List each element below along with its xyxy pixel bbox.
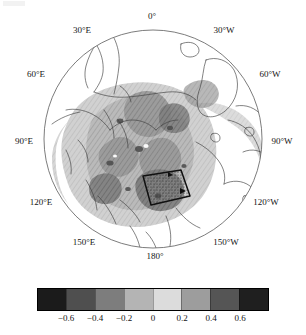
colorbar-tick-3: 0 [151,313,156,324]
colorbar-segment-6 [181,289,210,310]
lon-label-90w: 90°W [271,136,292,146]
colorbar-segment-1 [38,289,66,310]
colorbar-segment-2 [66,289,95,310]
lon-label-180: 180° [146,251,163,261]
colorbar-segment-4 [124,289,153,310]
field-core-siberia [89,173,122,204]
colorbar-tick-6: 0.6 [234,313,245,324]
colorbar-tick-2: −0.2 [116,313,132,324]
lon-label-120e: 120°E [30,197,53,207]
lon-label-120w: 120°W [253,197,279,207]
colorbar-tick-0: −0.6 [58,313,74,324]
field-core-arctic [159,103,190,133]
polar-stereographic-map-svg [0,0,306,268]
colorbar-segment-5 [153,289,182,310]
colorbar: −0.6 −0.4 −0.2 0 0.2 0.4 0.6 [0,268,306,335]
lon-label-150e: 150°E [73,237,96,247]
colorbar-segment-8 [239,289,268,310]
lon-label-30e: 30°E [73,25,91,35]
colorbar-swatches [37,288,269,311]
colorbar-segment-7 [210,289,239,310]
figure-panel: 0° 30°E 30°W 60°E 60°W 90°E 90°W 120°E 1… [0,0,306,335]
shaded-anomaly-field [52,80,263,227]
map-area: 0° 30°E 30°W 60°E 60°W 90°E 90°W 120°E 1… [0,0,306,268]
colorbar-segment-3 [95,289,124,310]
lon-label-60w: 60°W [259,69,280,79]
lon-label-60e: 60°E [27,69,45,79]
colorbar-tick-5: 0.4 [205,313,216,324]
colorbar-tick-4: 0.2 [176,313,187,324]
lon-label-90e: 90°E [15,136,33,146]
lon-label-0: 0° [148,11,156,21]
lon-label-30w: 30°W [213,25,234,35]
colorbar-tick-labels: −0.6 −0.4 −0.2 0 0.2 0.4 0.6 [37,313,269,327]
lon-label-150w: 150°W [213,237,239,247]
colorbar-tick-1: −0.4 [87,313,103,324]
